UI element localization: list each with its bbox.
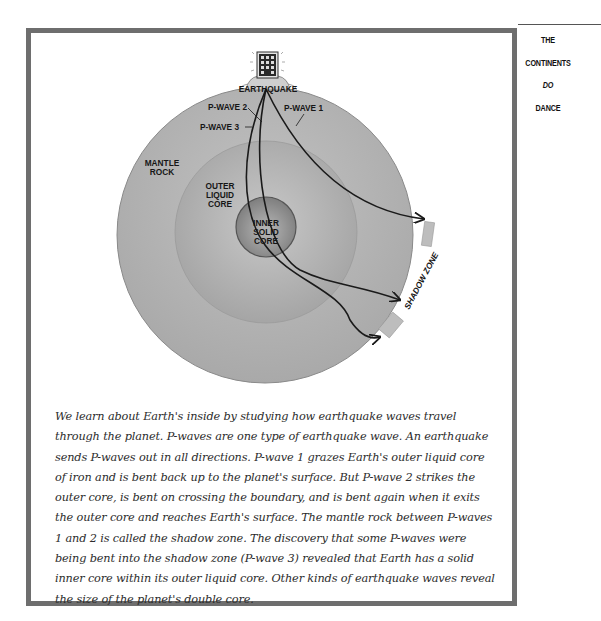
outer-core-label-line3: CORE [208,199,232,209]
p-wave-2-label: P-WAVE 2 [208,102,247,112]
caption-paragraph: We learn about Earth's inside by studyin… [55,407,495,610]
earthquake-label: EARTHQUAKE [239,84,298,94]
p-wave-3-label: P-WAVE 3 [200,122,239,132]
p-wave-1-label: P-WAVE 1 [284,103,323,113]
mantle-label-line2: ROCK [150,167,174,177]
inner-core-label-line3: CORE [254,236,278,246]
